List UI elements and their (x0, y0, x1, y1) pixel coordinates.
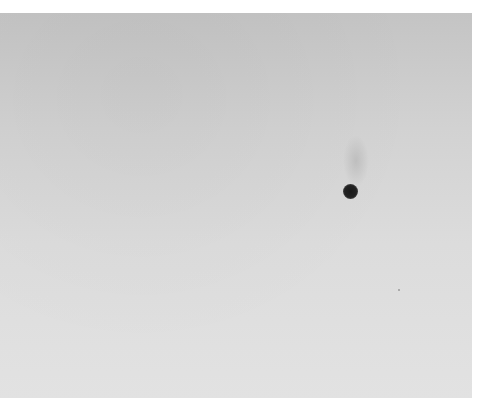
lighting-gradient (0, 13, 472, 398)
speck (398, 289, 400, 291)
dark-dot (343, 184, 358, 199)
photo-frame (0, 13, 472, 398)
faint-smudge (343, 135, 369, 187)
